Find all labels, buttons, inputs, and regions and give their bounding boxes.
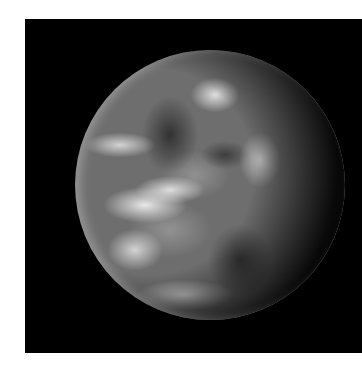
atmosphere-limb — [75, 50, 345, 320]
earth-globe — [75, 50, 345, 320]
photo-frame — [25, 19, 362, 353]
